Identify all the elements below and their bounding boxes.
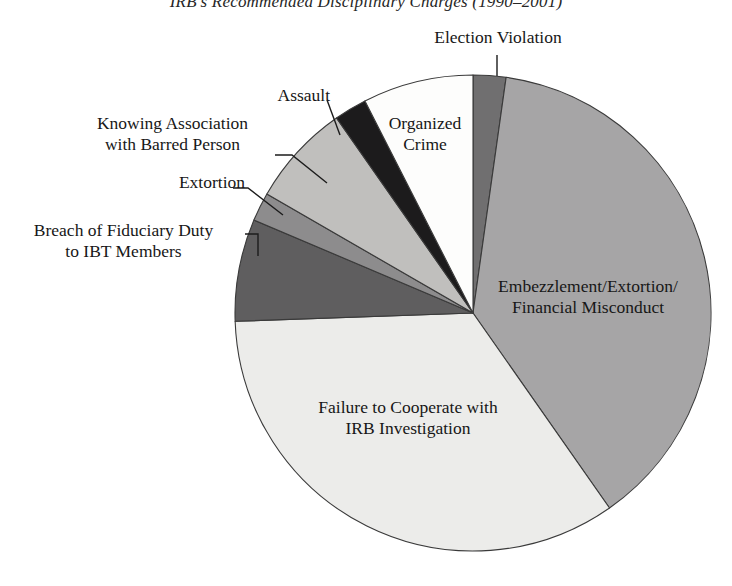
slice-label-failure-to-cooperate: Failure to Cooperate with IRB Investigat…: [283, 397, 533, 438]
pie-chart-figure: IRB's Recommended Disciplinary Charges (…: [0, 0, 732, 586]
slice-label-line-1: Failure to Cooperate with: [283, 397, 533, 418]
slice-label-text: Extortion: [179, 172, 245, 192]
slice-label-line-1: Organized: [355, 113, 495, 134]
slice-label-breach-of-fiduciary-duty: Breach of Fiduciary Duty to IBT Members: [0, 220, 247, 261]
slice-label-line-2: Crime: [355, 134, 495, 155]
slice-label-text: Assault: [278, 85, 331, 105]
slice-label-line-2: IRB Investigation: [283, 418, 533, 439]
slice-label-organized-crime: Organized Crime: [355, 113, 495, 154]
slice-label-extortion: Extortion: [60, 172, 245, 193]
slice-label-line-1: Knowing Association: [40, 113, 305, 134]
slice-label-assault: Assault: [150, 85, 330, 106]
slice-label-election-violation: Election Violation: [388, 27, 608, 48]
slice-label-line-2: with Barred Person: [40, 134, 305, 155]
slice-label-line-1: Breach of Fiduciary Duty: [0, 220, 247, 241]
slice-label-line-2: Financial Misconduct: [468, 297, 708, 318]
slice-label-text: Election Violation: [434, 27, 561, 47]
slice-label-knowing-association: Knowing Association with Barred Person: [40, 113, 305, 154]
slice-label-line-2: to IBT Members: [0, 241, 247, 262]
slice-label-embezzlement: Embezzlement/Extortion/ Financial Miscon…: [468, 276, 708, 317]
slice-label-line-1: Embezzlement/Extortion/: [468, 276, 708, 297]
